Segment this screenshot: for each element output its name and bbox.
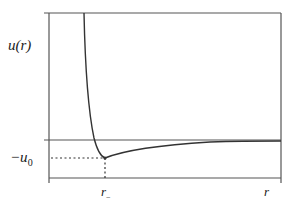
potential-curve — [84, 13, 281, 158]
min-value-subscript: 0 — [28, 157, 33, 168]
minimum-point — [103, 156, 106, 159]
potential-energy-plot — [0, 0, 295, 205]
x-axis-label: r — [264, 185, 269, 198]
min-value-label: −u0 — [10, 150, 33, 168]
min-value-main: −u — [10, 149, 28, 165]
min-position-label: r− — [101, 185, 111, 202]
min-position-subscript: − — [106, 193, 111, 202]
y-axis-label: u(r) — [8, 38, 31, 53]
